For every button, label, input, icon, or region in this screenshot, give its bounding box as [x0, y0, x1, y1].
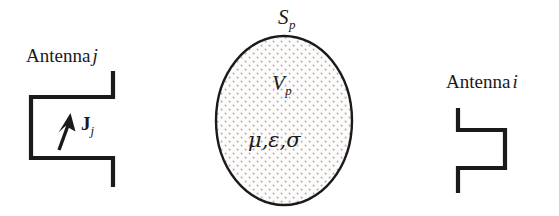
material-parameters-label: μ,ε,σ [248, 130, 301, 151]
antenna-right-shape [458, 110, 505, 191]
scatterer-body [214, 34, 356, 209]
antenna-right-label-index: i [510, 71, 517, 92]
volume-label: Vp [272, 73, 292, 97]
surface-symbol: S [278, 5, 289, 29]
current-density-subscript: j [91, 123, 95, 138]
surface-label: Sp [278, 7, 296, 31]
antenna-right-label: Antennai [446, 72, 518, 91]
current-arrow-icon [59, 113, 76, 150]
antenna-right-label-text: Antenna [446, 71, 510, 92]
antenna-scattering-diagram: Antennaj Antennai Sp Vp μ,ε,σ Jj [0, 0, 559, 216]
surface-subscript: p [289, 17, 296, 32]
current-density-symbol: J [81, 113, 91, 134]
antenna-left-label: Antennaj [26, 46, 98, 65]
volume-symbol: V [272, 71, 285, 95]
antenna-left-label-text: Antenna [26, 45, 90, 66]
current-density-label: Jj [81, 114, 94, 137]
diagram-canvas [0, 0, 559, 216]
volume-subscript: p [285, 83, 292, 98]
antenna-left-label-index: j [90, 45, 97, 66]
